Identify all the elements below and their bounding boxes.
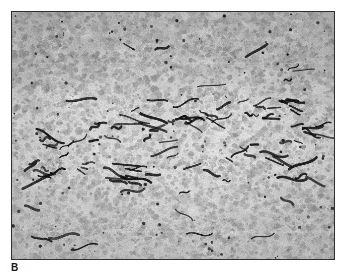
micrograph-image (12, 12, 334, 259)
micrograph-image-frame (11, 11, 335, 260)
panel-label: B (11, 262, 18, 273)
figure-panel: B (0, 0, 345, 275)
